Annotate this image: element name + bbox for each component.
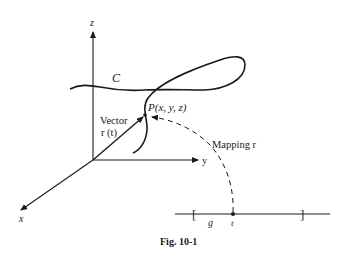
point-label: P(x, y, z) <box>147 101 187 114</box>
z-axis-label: z <box>89 17 94 28</box>
point-p <box>143 113 147 117</box>
y-axis-label: y <box>202 155 207 166</box>
x-axis-label: x <box>18 213 24 224</box>
parameter-point-t <box>231 212 235 216</box>
interval-open-bracket: [ <box>192 207 196 222</box>
x-axis <box>21 160 93 210</box>
mapping-label: Mapping r <box>212 139 257 150</box>
mapping-dashed-curve <box>152 117 233 212</box>
vector-label-line1: Vector <box>100 115 128 126</box>
interval-label: g <box>208 217 213 228</box>
curve-label: C <box>112 71 121 85</box>
figure-diagram: z y x C P(x, y, z) Vector r (t) Mapping … <box>0 0 359 262</box>
parameter-label: t <box>231 218 234 228</box>
interval-close-bracket: ] <box>300 207 304 222</box>
figure-caption: Fig. 10-1 <box>160 236 197 247</box>
vector-label-line2: r (t) <box>101 127 118 139</box>
